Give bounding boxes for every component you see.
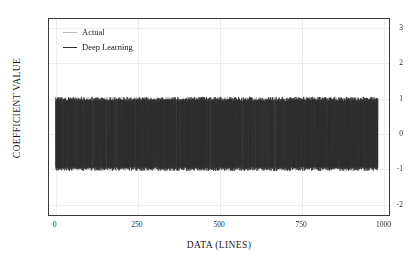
y-tick-label: 2 [359, 58, 403, 67]
y-axis-title-text: COEFFICIENT VALUE [12, 58, 22, 159]
x-tick-mark [220, 215, 221, 216]
x-tick-mark [302, 215, 303, 216]
x-axis-title-text: DATA (LINES) [187, 240, 251, 250]
x-axis-title: DATA (LINES) [48, 240, 390, 250]
x-tick-mark [56, 215, 57, 216]
y-axis-title: COEFFICIENT VALUE [8, 0, 26, 216]
y-tick-label: 1 [359, 93, 403, 102]
y-tick-mark [48, 169, 49, 170]
x-tick-label: 0 [53, 220, 57, 229]
y-tick-label: -2 [359, 199, 403, 208]
legend-label-deep-learning: Deep Learning [82, 42, 133, 52]
legend-swatch-actual [63, 32, 77, 33]
x-tick-label: 500 [213, 220, 224, 229]
y-tick-mark [48, 99, 49, 100]
y-tick-mark [48, 28, 49, 29]
x-tick-label: 1000 [376, 220, 391, 229]
legend-item-deep-learning: Deep Learning [63, 42, 133, 52]
y-tick-label: 0 [359, 128, 403, 137]
y-tick-label: 3 [359, 22, 403, 31]
y-tick-mark [48, 205, 49, 206]
x-tick-mark [138, 215, 139, 216]
chart-figure: COEFFICIENT VALUE Actual Deep Learning 3… [0, 0, 409, 266]
y-tick-mark [48, 63, 49, 64]
legend-label-actual: Actual [82, 27, 105, 37]
legend-item-actual: Actual [63, 27, 133, 37]
y-tick-mark [48, 134, 49, 135]
plot-area: Actual Deep Learning [48, 18, 390, 216]
x-tick-label: 250 [131, 220, 142, 229]
chart-legend: Actual Deep Learning [63, 27, 133, 52]
legend-swatch-deep-learning [63, 47, 77, 48]
x-tick-label: 750 [296, 220, 307, 229]
y-tick-label: -1 [359, 164, 403, 173]
x-tick-mark [384, 215, 385, 216]
